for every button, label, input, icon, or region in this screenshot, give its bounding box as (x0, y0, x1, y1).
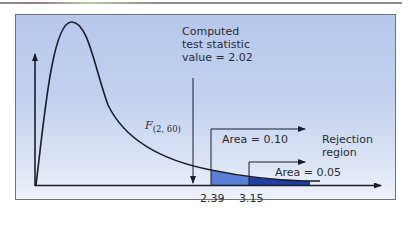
rejection-region-label-line2: region (322, 146, 357, 159)
f-curve (36, 22, 320, 185)
tick-label-2-39: 2.39 (200, 192, 225, 205)
rejection-region-label-line1: Rejection (322, 133, 373, 146)
computed-statistic-label-line2: test statistic (182, 38, 250, 51)
area-005-label: Area = 0.05 (275, 166, 341, 179)
tick-label-3-15: 3.15 (239, 192, 264, 205)
computed-statistic-label-line3: value = 2.02 (182, 51, 253, 64)
f-distribution-diagram: Computed test statistic value = 2.02 F(2… (0, 0, 412, 226)
computed-statistic-label-line1: Computed (182, 25, 239, 38)
area-010-region (211, 170, 249, 185)
distribution-label: F(2, 60) (144, 119, 181, 134)
area-010-label: Area = 0.10 (222, 133, 288, 146)
